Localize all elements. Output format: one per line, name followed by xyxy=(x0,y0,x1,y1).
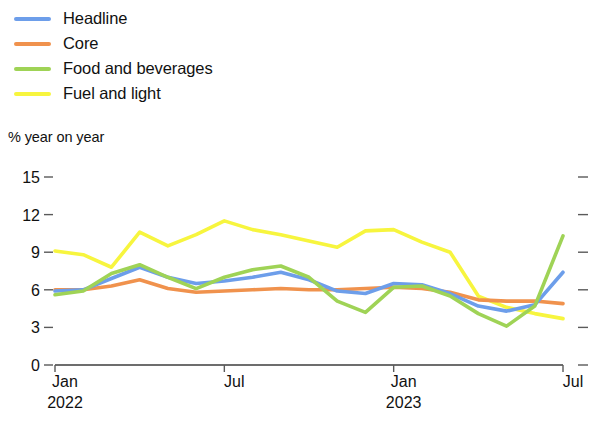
x-tick-sublabel: 2023 xyxy=(386,394,422,411)
y-axis-ticks-left xyxy=(44,177,53,365)
x-axis-ticks xyxy=(55,365,563,372)
y-tick-label: 15 xyxy=(22,169,40,186)
x-tick-label: Jul xyxy=(224,373,244,390)
y-axis-tick-labels: 03691215 xyxy=(22,169,40,374)
y-tick-label: 3 xyxy=(31,319,40,336)
plot-area: 03691215 Jan2022JulJan2023Jul xyxy=(0,0,593,423)
y-tick-label: 0 xyxy=(31,357,40,374)
x-tick-label: Jan xyxy=(391,373,417,390)
y-axis-ticks-right xyxy=(578,177,588,365)
series-lines-group xyxy=(55,221,563,326)
y-tick-label: 12 xyxy=(22,207,40,224)
x-tick-label: Jul xyxy=(563,373,583,390)
y-tick-label: 9 xyxy=(31,244,40,261)
series-line-core xyxy=(55,280,563,304)
x-tick-label: Jan xyxy=(52,373,78,390)
y-tick-label: 6 xyxy=(31,282,40,299)
x-axis-tick-labels: Jan2022JulJan2023Jul xyxy=(47,373,583,411)
x-tick-sublabel: 2022 xyxy=(47,394,83,411)
chart-container: Headline Core Food and beverages Fuel an… xyxy=(0,0,593,423)
